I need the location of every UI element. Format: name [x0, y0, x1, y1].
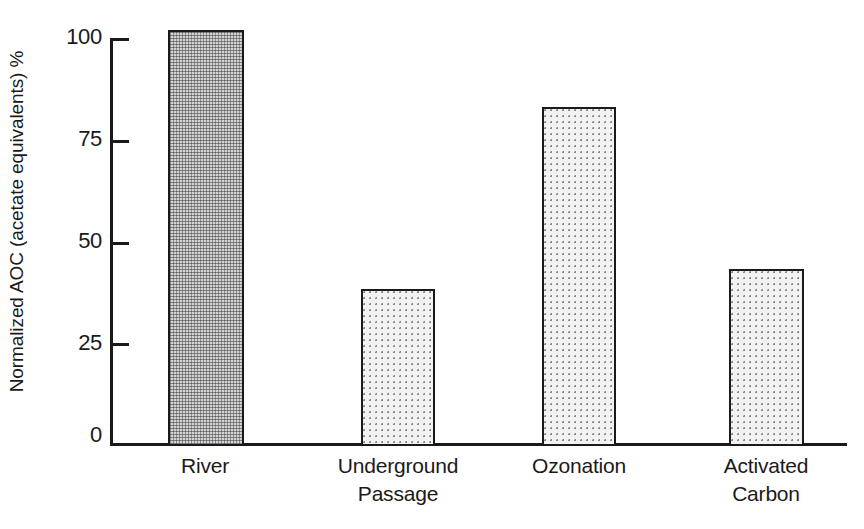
x-tick-label-river: River	[125, 452, 285, 480]
x-axis-tick-labels: River Underground Passage Ozonation Acti…	[0, 452, 864, 522]
bar-river	[168, 30, 244, 446]
plot-area	[0, 0, 864, 446]
bar-underground-passage	[361, 289, 435, 446]
bar-ozonation	[542, 107, 616, 446]
bar-chart-figure: Normalized AOC (acetate equivalents) % 1…	[0, 0, 864, 529]
x-tick-label-ozonation: Ozonation	[495, 452, 663, 480]
x-tick-label-activated-carbon: Activated Carbon	[686, 452, 846, 508]
bar-activated-carbon	[729, 269, 804, 446]
x-tick-label-underground-passage: Underground Passage	[312, 452, 484, 508]
